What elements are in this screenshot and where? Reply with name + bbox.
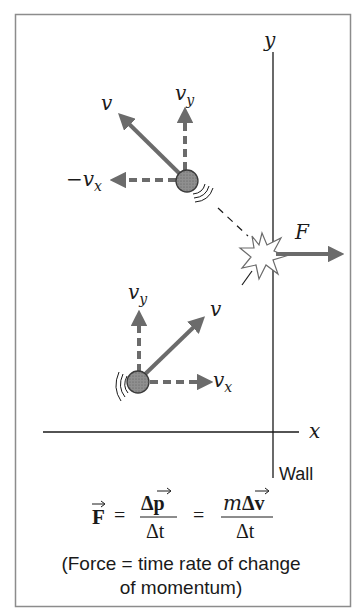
formula-force-symbol: F <box>92 505 105 529</box>
formula-frac2-numerator: mΔv <box>223 491 265 515</box>
caption-line-2: of momentum) <box>120 577 242 598</box>
formula-frac1-denominator: Δt <box>146 520 165 542</box>
incoming-ball <box>127 371 149 393</box>
outgoing-v-label: v <box>101 91 113 115</box>
x-axis-label: x <box>309 419 320 443</box>
momentum-wall-collision-diagram: y x Wall v vy −vx F <box>0 0 353 614</box>
formula-frac1-numerator: Δp <box>141 492 165 515</box>
incoming-v-label: v <box>210 297 222 321</box>
outgoing-ball <box>176 170 198 192</box>
y-axis-label: y <box>263 28 276 52</box>
force-label: F <box>294 220 310 244</box>
formula-equals-1: = <box>114 504 125 526</box>
formula-frac2-denominator: Δt <box>236 520 255 542</box>
formula-equals-2: = <box>193 504 204 526</box>
wall-label: Wall <box>279 464 313 484</box>
caption-line-1: (Force = time rate of change <box>61 553 300 574</box>
